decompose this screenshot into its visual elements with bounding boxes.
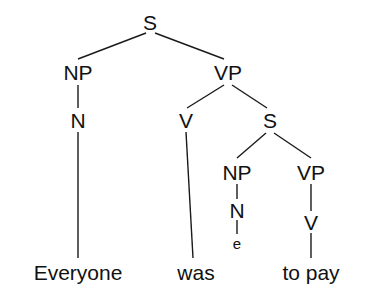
node-v-was: V (179, 110, 193, 131)
edge-vp-to-s (232, 85, 267, 108)
leaf-was: was (177, 262, 214, 283)
node-vp-main: VP (214, 62, 242, 83)
node-np-subject: NP (63, 62, 92, 83)
node-np-trace: NP (222, 162, 251, 183)
node-n-subject: N (70, 110, 85, 131)
edge-v-to-was (186, 132, 193, 258)
edge-s-to-vp (155, 33, 224, 59)
node-vp-embedded: VP (297, 162, 325, 183)
edge-s-to-np (78, 33, 146, 59)
node-v-topay: V (304, 212, 318, 233)
tree-edges-layer (0, 0, 368, 301)
leaf-to-pay: to pay (282, 262, 339, 283)
node-n-trace: N (229, 200, 244, 221)
leaf-everyone: Everyone (34, 262, 123, 283)
edges-group (78, 33, 311, 258)
node-s-embedded: S (263, 110, 277, 131)
edge-vp-to-v (187, 85, 224, 108)
node-trace-e: e (233, 236, 241, 251)
node-s-root: S (143, 12, 157, 33)
syntax-tree-diagram: S NP VP N V S NP VP N V e Everyone was t… (0, 0, 368, 301)
edge-s2-to-vp (274, 133, 311, 158)
edge-s2-to-np (237, 133, 266, 158)
